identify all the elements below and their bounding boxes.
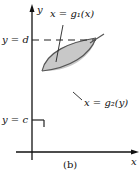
leader-g2 [73,92,82,100]
curve-g1-label: x = g₁(x) [50,9,94,19]
region-fill [42,38,96,71]
y-equals-d-label: y = d [2,35,29,45]
y-axis-arrow [30,4,35,12]
y-axis-label: y [37,5,43,15]
x-axis-arrow [131,150,139,155]
diagram-figure: y x x = g₁(x) y = d y = c x = g₂(y) (b) [0,0,140,175]
figure-caption: (b) [63,160,77,170]
y-equals-c-label: y = c [2,115,28,125]
curve-g2-label: x = g₂(y) [84,98,128,108]
x-axis-label: x [131,157,137,167]
diagram-canvas [0,0,140,175]
